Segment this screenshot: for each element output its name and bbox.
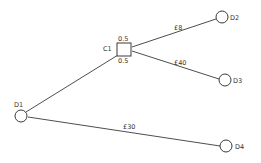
- edge-d1-c1: [26, 55, 118, 112]
- edge-label-c1-d2: £8: [174, 24, 182, 32]
- node-label-d2: D2: [230, 14, 239, 22]
- node-label-c1: C1: [103, 45, 112, 53]
- chance-node-c1: [117, 43, 131, 56]
- decision-node-d1: [15, 110, 27, 122]
- edge-d1-d4: [28, 117, 220, 146]
- probability-lower: 0.5: [118, 57, 128, 65]
- edge-label-c1-d3: £40: [174, 59, 186, 67]
- decision-tree-diagram: D1 C1 D2 D3 D4 0.5 0.5 £8 £40 £30: [0, 0, 261, 163]
- node-label-d1: D1: [14, 101, 23, 109]
- decision-node-d3: [219, 74, 231, 86]
- probability-upper: 0.5: [118, 35, 128, 43]
- node-label-d3: D3: [233, 77, 242, 85]
- decision-node-d2: [216, 11, 228, 23]
- edge-label-d1-d4: £30: [123, 123, 135, 131]
- node-label-d4: D4: [235, 143, 244, 151]
- decision-node-d4: [220, 140, 232, 152]
